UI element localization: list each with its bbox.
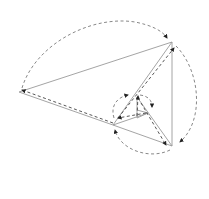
spiral-triangle-diagram (0, 0, 209, 199)
inner-triangles (113, 97, 148, 125)
dashed-arrows (22, 48, 174, 145)
outer-triangle (19, 42, 172, 146)
rotation-arcs (22, 21, 197, 154)
